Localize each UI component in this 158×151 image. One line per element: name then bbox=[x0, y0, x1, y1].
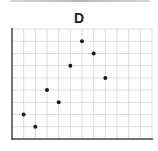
data-point bbox=[68, 64, 72, 68]
data-point bbox=[80, 39, 84, 43]
data-point bbox=[57, 100, 61, 104]
data-point bbox=[45, 88, 49, 92]
scatter-plot bbox=[0, 0, 158, 151]
data-point bbox=[22, 113, 26, 117]
data-points bbox=[22, 39, 108, 129]
data-point bbox=[103, 76, 107, 80]
data-point bbox=[33, 125, 37, 129]
grid-lines bbox=[12, 29, 152, 139]
data-point bbox=[92, 51, 96, 55]
